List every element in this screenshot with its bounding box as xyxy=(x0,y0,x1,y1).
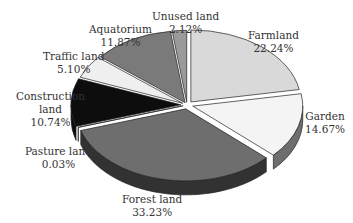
label-aquatorium: Aquatorium 11.87% xyxy=(89,23,152,49)
label-value: 10.74% xyxy=(16,116,85,129)
label-forest-land: Forest land 33.23% xyxy=(122,193,182,219)
label-value: 0.03% xyxy=(25,158,92,171)
label-construction-land: Construction land 10.74% xyxy=(16,90,85,129)
label-value: 33.23% xyxy=(122,206,182,219)
label-name: Aquatorium xyxy=(89,23,152,36)
label-name: Farmland xyxy=(248,29,299,42)
label-traffic-land: Traffic land 5.10% xyxy=(43,50,104,76)
label-value: 5.10% xyxy=(43,63,104,76)
label-unused-land: Unused land 2.12% xyxy=(152,10,219,36)
label-pasture-land: Pasture land 0.03% xyxy=(25,145,92,171)
label-name: Construction xyxy=(16,90,85,103)
label-value: 22.24% xyxy=(248,42,299,55)
label-value: 14.67% xyxy=(305,123,345,136)
label-name: Traffic land xyxy=(43,50,104,63)
label-name-2: land xyxy=(16,103,85,116)
label-garden: Garden 14.67% xyxy=(305,110,345,136)
label-value: 11.87% xyxy=(89,36,152,49)
label-name: Forest land xyxy=(122,193,182,206)
label-value: 2.12% xyxy=(152,23,219,36)
label-name: Unused land xyxy=(152,10,219,23)
label-name: Garden xyxy=(305,110,345,123)
label-farmland: Farmland 22.24% xyxy=(248,29,299,55)
label-name: Pasture land xyxy=(25,145,92,158)
